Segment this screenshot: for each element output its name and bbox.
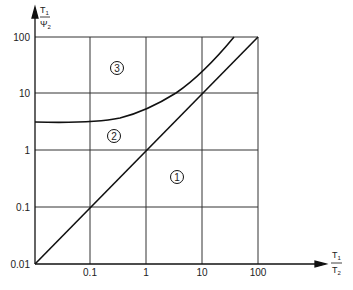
- x-tick-10: 10: [196, 267, 208, 278]
- x-tick-100: 100: [250, 267, 267, 278]
- y-axis-arrow-icon: [32, 7, 38, 18]
- region-2-marker: 2: [108, 130, 121, 143]
- x-axis-label: T1 T2: [331, 250, 342, 276]
- svg-text:Ψ2: Ψ2: [40, 19, 52, 30]
- x-tick-1: 1: [143, 267, 149, 278]
- svg-text:1: 1: [174, 172, 180, 183]
- svg-text:T2: T2: [332, 265, 342, 276]
- svg-text:T1: T1: [40, 5, 50, 16]
- x-tick-0.1: 0.1: [83, 267, 97, 278]
- y-tick-100: 100: [13, 32, 30, 43]
- boundary-curve: [35, 37, 234, 122]
- region-3-marker: 3: [111, 62, 124, 75]
- svg-text:T1: T1: [332, 250, 342, 261]
- y-tick-10: 10: [19, 88, 31, 99]
- log-log-chart: 100 10 1 0.1 0.01 0.1 1 10 100 T1 Ψ2 T1 …: [0, 0, 353, 290]
- region-1-marker: 1: [171, 171, 184, 184]
- axes: [32, 7, 326, 267]
- svg-text:3: 3: [114, 63, 120, 74]
- y-tick-0.01: 0.01: [11, 259, 31, 270]
- y-tick-1: 1: [24, 145, 30, 156]
- svg-text:2: 2: [111, 131, 117, 142]
- y-axis-label: T1 Ψ2: [40, 5, 52, 30]
- y-tick-0.1: 0.1: [16, 202, 30, 213]
- x-axis-arrow-icon: [315, 261, 326, 267]
